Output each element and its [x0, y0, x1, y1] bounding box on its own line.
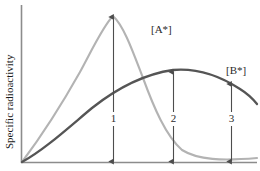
annotation-arrow-1: 1 — [111, 17, 117, 162]
annotation-label-3: 3 — [229, 112, 235, 124]
annotation-label-1: 1 — [111, 112, 117, 124]
chart-figure: Specific radioactivity 1 2 — [0, 0, 260, 171]
annotation-arrow-2: 2 — [171, 72, 177, 162]
series-label-a: [A*] — [151, 23, 172, 35]
series-line-a — [22, 16, 257, 162]
annotation-label-2: 2 — [171, 112, 177, 124]
series-label-b: [B*] — [226, 64, 246, 76]
y-axis-label: Specific radioactivity — [3, 54, 15, 149]
chart-canvas: Specific radioactivity 1 2 — [0, 0, 260, 171]
series-line-b — [22, 70, 257, 162]
annotation-arrow-3: 3 — [229, 84, 235, 162]
